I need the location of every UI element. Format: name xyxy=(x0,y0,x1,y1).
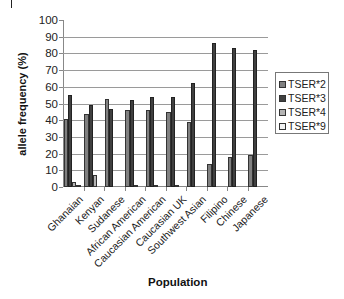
y-tick-label: 10 xyxy=(32,164,58,176)
bar-tser3-african-american xyxy=(130,100,134,187)
plot-area xyxy=(63,20,268,187)
bar-tser4-caucasian-uk xyxy=(175,185,179,187)
legend-swatch-icon xyxy=(279,95,286,102)
x-tick-mark xyxy=(207,187,208,191)
bar-tser3-caucasian-american xyxy=(150,97,154,187)
legend-item-tser2: TSER*2 xyxy=(279,77,328,91)
x-axis-title: Population xyxy=(148,276,207,288)
gridline xyxy=(63,53,268,54)
y-tick-mark xyxy=(59,87,63,88)
legend-swatch-icon xyxy=(279,109,286,116)
y-tick-label: 0 xyxy=(32,181,58,193)
y-tick-mark xyxy=(59,53,63,54)
bar-tser3-ghanaian xyxy=(68,95,72,187)
y-tick-label: 40 xyxy=(32,114,58,126)
bar-tser3-japanese xyxy=(253,50,257,187)
bar-tser9-ghanaian xyxy=(76,185,80,187)
bar-tser4-african-american xyxy=(134,185,138,187)
legend-label: TSER*9 xyxy=(288,120,326,132)
bar-tser3-caucasian-uk xyxy=(171,97,175,187)
bar-tser4-caucasian-american xyxy=(154,185,158,187)
x-tick-mark xyxy=(186,187,187,191)
x-tick-mark xyxy=(248,187,249,191)
y-tick-mark xyxy=(59,70,63,71)
x-tick-mark xyxy=(166,187,167,191)
bar-tser3-sudanese xyxy=(109,109,113,187)
y-tick-label: 100 xyxy=(32,14,58,26)
legend-item-tser9: TSER*9 xyxy=(279,119,328,133)
gridline xyxy=(63,104,268,105)
corner-mark xyxy=(11,0,12,8)
legend: TSER*2TSER*3TSER*4TSER*9 xyxy=(275,72,329,134)
legend-item-tser3: TSER*3 xyxy=(279,91,328,105)
y-tick-label: 90 xyxy=(32,31,58,43)
x-tick-mark xyxy=(125,187,126,191)
gridline xyxy=(63,87,268,88)
gridline xyxy=(63,37,268,38)
y-tick-label: 20 xyxy=(32,148,58,160)
y-tick-mark xyxy=(59,20,63,21)
y-tick-mark xyxy=(59,187,63,188)
legend-swatch-icon xyxy=(279,81,286,88)
y-tick-mark xyxy=(59,37,63,38)
x-tick-mark xyxy=(84,187,85,191)
bar-tser3-southwest-asian xyxy=(191,83,195,187)
bar-tser3-chinese xyxy=(232,48,236,187)
y-tick-label: 60 xyxy=(32,81,58,93)
x-tick-mark xyxy=(227,187,228,191)
legend-label: TSER*3 xyxy=(288,92,326,104)
y-tick-label: 50 xyxy=(32,98,58,110)
y-tick-label: 70 xyxy=(32,64,58,76)
y-tick-mark xyxy=(59,137,63,138)
x-tick-mark xyxy=(104,187,105,191)
y-tick-mark xyxy=(59,154,63,155)
bar-tser3-filipino xyxy=(212,43,216,187)
y-tick-label: 80 xyxy=(32,47,58,59)
y-axis-title: allele frequency (%) xyxy=(16,49,28,159)
legend-item-tser4: TSER*4 xyxy=(279,105,328,119)
y-tick-mark xyxy=(59,104,63,105)
y-tick-label: 30 xyxy=(32,131,58,143)
legend-swatch-icon xyxy=(279,123,286,130)
gridline xyxy=(63,70,268,71)
x-tick-mark xyxy=(145,187,146,191)
y-tick-mark xyxy=(59,120,63,121)
y-tick-mark xyxy=(59,170,63,171)
legend-label: TSER*2 xyxy=(288,78,326,90)
bar-tser4-kenyan xyxy=(93,175,97,187)
legend-label: TSER*4 xyxy=(288,106,326,118)
